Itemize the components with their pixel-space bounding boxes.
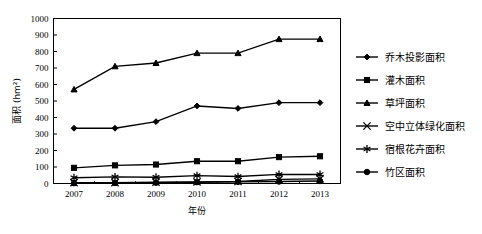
triangle-marker (71, 86, 77, 92)
square-marker (112, 163, 117, 168)
x-tick-label: 2009 (147, 189, 166, 199)
square-marker (153, 162, 158, 167)
legend-item-label: 空中立体绿化面积 (385, 120, 465, 132)
legend-item-2[interactable]: 灌木面积 (356, 75, 425, 86)
diamond-marker (235, 106, 241, 112)
series-line (74, 39, 320, 89)
y-tick-label: 400 (35, 113, 49, 123)
diamond-marker (276, 100, 282, 106)
legend-item-label: 竹区面积 (385, 166, 425, 178)
legend-square-icon (364, 77, 369, 82)
y-tick-label: 600 (35, 80, 49, 90)
legend-item-label: 草坪面积 (385, 97, 425, 109)
y-tick-label: 1000 (31, 14, 50, 24)
legend-item-label: 宿根花卉面积 (385, 143, 445, 155)
square-marker (276, 155, 281, 160)
circle-marker (112, 180, 118, 186)
y-axis-title: 面积 (hm²) (11, 78, 22, 124)
x-tick-label: 2012 (270, 189, 288, 199)
y-tick-label: 900 (35, 30, 49, 40)
y-tick-label: 200 (35, 146, 49, 156)
legend-item-label: 乔木投影面积 (385, 51, 445, 63)
diamond-marker (317, 100, 323, 106)
square-marker (71, 165, 76, 170)
square-marker (194, 159, 199, 164)
series-3 (71, 36, 323, 92)
y-tick-label: 500 (35, 96, 49, 106)
legend: 乔木投影面积灌木面积草坪面积空中立体绿化面积宿根花卉面积竹区面积 (356, 51, 465, 178)
legend-diamond-icon (364, 54, 370, 60)
circle-marker (235, 179, 241, 185)
y-tick-label: 0 (44, 179, 49, 189)
series-2 (71, 154, 322, 171)
square-marker (317, 154, 322, 159)
legend-item-1[interactable]: 乔木投影面积 (356, 51, 445, 63)
series-1 (71, 100, 323, 131)
legend-circle-icon (364, 169, 370, 175)
y-tick-label: 100 (35, 162, 49, 172)
circle-marker (276, 179, 282, 185)
series-group (70, 36, 323, 186)
circle-marker (153, 180, 159, 186)
line-chart-figure: 0100200300400500600700800900100020072008… (0, 0, 482, 234)
chart-canvas: 0100200300400500600700800900100020072008… (0, 0, 482, 234)
legend-item-label: 灌木面积 (385, 75, 425, 86)
y-tick-label: 700 (35, 63, 49, 73)
x-tick-label: 2008 (106, 189, 125, 199)
y-tick-label: 800 (35, 47, 49, 57)
y-tick-label: 300 (35, 129, 49, 139)
square-marker (235, 159, 240, 164)
x-tick-label: 2007 (65, 189, 84, 199)
diamond-marker (112, 125, 118, 131)
x-tick-label: 2011 (229, 189, 247, 199)
diamond-marker (153, 119, 159, 125)
x-tick-label: 2013 (311, 189, 330, 199)
circle-marker (194, 179, 200, 185)
circle-marker (71, 180, 77, 186)
diamond-marker (71, 125, 77, 131)
legend-item-5[interactable]: 宿根花卉面积 (356, 143, 445, 155)
legend-item-6[interactable]: 竹区面积 (356, 166, 425, 178)
diamond-marker (194, 103, 200, 109)
legend-item-3[interactable]: 草坪面积 (356, 97, 425, 109)
x-tick-label: 2010 (188, 189, 207, 199)
legend-item-4[interactable]: 空中立体绿化面积 (356, 120, 465, 132)
x-axis-title: 年份 (188, 205, 206, 216)
circle-marker (317, 178, 323, 184)
